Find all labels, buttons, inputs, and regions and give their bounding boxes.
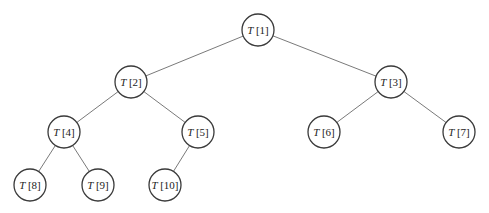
node-label-index: [6] — [322, 126, 335, 138]
node-label: T [6] — [313, 126, 335, 138]
node-label: T [10] — [152, 179, 179, 191]
node-label-var: T — [19, 179, 28, 191]
tree-edge — [39, 145, 56, 171]
tree-node-1: T [1] — [242, 14, 274, 46]
node-label-var: T — [120, 76, 129, 88]
node-label-index: [3] — [389, 76, 402, 88]
node-label-var: T — [380, 76, 389, 88]
node-label-var: T — [87, 179, 96, 191]
tree-node-7: T [7] — [443, 116, 475, 148]
node-label-index: [8] — [28, 179, 41, 191]
binary-tree-diagram: T [1]T [2]T [3]T [4]T [5]T [6]T [7]T [8]… — [0, 0, 489, 213]
node-label-index: [2] — [129, 76, 142, 88]
node-label-var: T — [448, 126, 457, 138]
tree-node-4: T [4] — [48, 116, 80, 148]
tree-edge — [173, 146, 189, 172]
tree-node-5: T [5] — [182, 116, 214, 148]
tree-edge — [146, 36, 243, 76]
node-label: T [7] — [448, 126, 470, 138]
tree-node-2: T [2] — [115, 66, 147, 98]
tree-edge — [337, 92, 378, 123]
tree-nodes: T [1]T [2]T [3]T [4]T [5]T [6]T [7]T [8]… — [14, 14, 475, 201]
node-label-index: [10] — [160, 179, 178, 191]
tree-edge — [273, 36, 376, 76]
tree-node-9: T [9] — [82, 169, 114, 201]
tree-node-3: T [3] — [375, 66, 407, 98]
node-label-index: [1] — [256, 24, 269, 36]
node-label-var: T — [152, 179, 161, 191]
node-label: T [2] — [120, 76, 142, 88]
node-label-index: [7] — [457, 126, 470, 138]
node-label: T [4] — [53, 126, 75, 138]
tree-node-8: T [8] — [14, 169, 46, 201]
node-label: T [3] — [380, 76, 402, 88]
node-label-index: [4] — [62, 126, 75, 138]
node-label: T [8] — [19, 179, 41, 191]
tree-node-10: T [10] — [149, 169, 181, 201]
tree-edges — [39, 36, 446, 172]
node-label-var: T — [247, 24, 256, 36]
tree-node-6: T [6] — [308, 116, 340, 148]
node-label-index: [5] — [196, 126, 209, 138]
tree-edge — [77, 92, 118, 123]
node-label-var: T — [313, 126, 322, 138]
node-label-index: [9] — [96, 179, 109, 191]
node-label-var: T — [53, 126, 62, 138]
tree-edge — [73, 145, 90, 171]
tree-edge — [144, 92, 185, 123]
node-label: T [1] — [247, 24, 269, 36]
node-label: T [5] — [187, 126, 209, 138]
node-label: T [9] — [87, 179, 109, 191]
tree-edge — [404, 91, 446, 122]
node-label-var: T — [187, 126, 196, 138]
